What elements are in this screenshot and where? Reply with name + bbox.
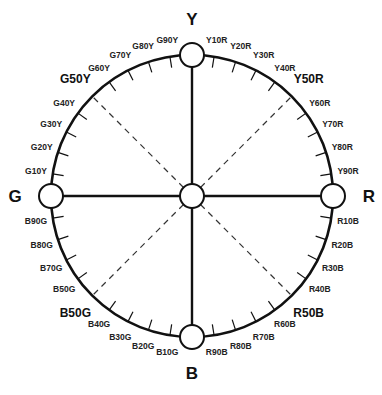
tick-mark bbox=[316, 152, 326, 155]
hue-label: B80G bbox=[31, 240, 54, 250]
primary-label-r: R bbox=[363, 187, 375, 206]
hue-label: Y80R bbox=[332, 142, 353, 152]
tick-mark bbox=[148, 62, 151, 72]
tick-mark bbox=[251, 70, 256, 80]
hue-label: G90Y bbox=[156, 35, 178, 45]
diagonal-dash-line bbox=[92, 204, 183, 295]
tick-mark bbox=[109, 82, 115, 91]
secondary-hue-label: G50Y bbox=[60, 72, 91, 86]
secondary-hue-label: R50B bbox=[293, 306, 324, 320]
hue-label: R90B bbox=[206, 347, 228, 357]
tick-mark bbox=[320, 216, 331, 218]
tick-mark bbox=[232, 62, 235, 72]
tick-mark bbox=[170, 57, 172, 68]
hue-label: B70G bbox=[40, 263, 63, 273]
hue-label: Y60R bbox=[309, 98, 330, 108]
primary-node-r bbox=[321, 184, 345, 208]
ncs-colour-circle: Y10RY20RY30RY40RY50RY60RY70RY80RY90RR10B… bbox=[0, 0, 382, 395]
hue-label: R80B bbox=[230, 341, 252, 351]
hue-label: Y30R bbox=[253, 50, 274, 60]
hue-label: G40Y bbox=[53, 98, 75, 108]
hue-label: B50G bbox=[53, 284, 76, 294]
hue-label: Y70R bbox=[322, 119, 343, 129]
secondary-hue-label: B50G bbox=[60, 306, 91, 320]
hue-label: R20B bbox=[331, 240, 353, 250]
tick-mark bbox=[58, 236, 68, 239]
tick-mark bbox=[53, 216, 64, 218]
primary-label-y: Y bbox=[186, 10, 198, 29]
hue-label: G80Y bbox=[132, 41, 154, 51]
tick-mark bbox=[212, 324, 214, 335]
tick-mark bbox=[58, 152, 68, 155]
hue-label: Y40R bbox=[274, 63, 295, 73]
tick-mark bbox=[308, 255, 318, 260]
primary-node-b bbox=[180, 325, 204, 349]
primary-node-g bbox=[39, 184, 63, 208]
diagonal-dash-line bbox=[200, 96, 291, 187]
hue-label: B30G bbox=[109, 332, 132, 342]
tick-mark bbox=[66, 132, 76, 137]
hue-label: G20Y bbox=[31, 142, 53, 152]
tick-mark bbox=[53, 174, 64, 176]
hue-label: R40B bbox=[309, 284, 331, 294]
tick-mark bbox=[128, 312, 133, 322]
hue-label: B20G bbox=[132, 341, 155, 351]
hue-label: R70B bbox=[253, 332, 275, 342]
primary-label-b: B bbox=[186, 364, 198, 383]
tick-mark bbox=[251, 312, 256, 322]
tick-mark bbox=[66, 255, 76, 260]
hue-label: Y90R bbox=[337, 166, 358, 176]
hue-label: G30Y bbox=[40, 119, 62, 129]
primary-node-y bbox=[180, 43, 204, 67]
primary-label-g: G bbox=[8, 187, 21, 206]
tick-mark bbox=[128, 70, 133, 80]
tick-mark bbox=[109, 301, 115, 310]
hue-label: B90G bbox=[25, 216, 48, 226]
tick-mark bbox=[232, 320, 235, 330]
tick-mark bbox=[78, 113, 87, 119]
hue-label: B40G bbox=[88, 319, 111, 329]
hue-label: Y20R bbox=[230, 41, 251, 51]
hue-label: G70Y bbox=[109, 50, 131, 60]
tick-mark bbox=[170, 324, 172, 335]
hue-label: R10B bbox=[337, 216, 359, 226]
hue-label: B10G bbox=[156, 347, 179, 357]
tick-mark bbox=[297, 272, 306, 278]
tick-mark bbox=[148, 320, 151, 330]
hue-label: R30B bbox=[322, 263, 344, 273]
hue-label: Y10R bbox=[206, 35, 227, 45]
tick-mark bbox=[308, 132, 318, 137]
tick-mark bbox=[78, 272, 87, 278]
secondary-hue-label: Y50R bbox=[294, 72, 324, 86]
tick-mark bbox=[297, 113, 306, 119]
tick-mark bbox=[268, 301, 274, 310]
tick-mark bbox=[212, 57, 214, 68]
tick-mark bbox=[268, 82, 274, 91]
center-node bbox=[180, 184, 204, 208]
hue-label: R60B bbox=[274, 319, 296, 329]
tick-mark bbox=[316, 236, 326, 239]
tick-mark bbox=[320, 174, 331, 176]
diagonal-dash-line bbox=[200, 204, 291, 295]
diagonal-dash-line bbox=[92, 96, 183, 187]
hue-label: G10Y bbox=[25, 166, 47, 176]
hue-label: G60Y bbox=[88, 63, 110, 73]
